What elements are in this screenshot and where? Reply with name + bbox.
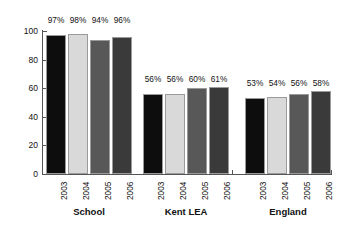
y-axis-line: [42, 30, 43, 175]
bar-kentlea-2004: [165, 94, 185, 174]
value-label-kentlea-2006: 61%: [205, 75, 233, 83]
bar-school-2004: [68, 34, 88, 174]
bar-kentlea-2005: [187, 88, 207, 174]
year-label-kentlea-2004: 2004: [179, 182, 187, 200]
bar-kentlea-2006: [209, 87, 229, 174]
plot-area: 0 20 40 60 80 100 97% 98% 94% 96% 2003 2…: [0, 0, 341, 226]
value-label-england-2006: 58%: [307, 79, 335, 87]
year-label-kentlea-2005: 2005: [201, 182, 209, 200]
group-label-england: England: [243, 207, 333, 217]
year-label-school-2004: 2004: [82, 182, 90, 200]
group-label-school: School: [44, 207, 134, 217]
year-label-england-2004: 2004: [281, 182, 289, 200]
bar-england-2005: [289, 94, 309, 174]
year-label-school-2005: 2005: [104, 182, 112, 200]
year-label-england-2003: 2003: [259, 182, 267, 200]
year-label-kentlea-2006: 2006: [223, 182, 231, 200]
x-tick-group-sep-2: [232, 170, 233, 175]
value-label-school-2006: 96%: [108, 16, 136, 24]
bar-england-2004: [267, 97, 287, 174]
y-tick-label-0: 0: [12, 170, 38, 179]
bar-kentlea-2003: [143, 94, 163, 174]
bar-chart: 0 20 40 60 80 100 97% 98% 94% 96% 2003 2…: [0, 0, 341, 226]
group-label-kentlea: Kent LEA: [141, 207, 231, 217]
y-tick-label-20: 20: [12, 141, 38, 150]
x-tick-end: [331, 170, 332, 175]
year-label-england-2006: 2006: [325, 182, 333, 200]
year-label-england-2005: 2005: [303, 182, 311, 200]
year-label-school-2003: 2003: [60, 182, 68, 200]
y-tick-100: [43, 31, 47, 32]
bar-school-2005: [90, 40, 110, 174]
year-label-school-2006: 2006: [126, 182, 134, 200]
y-tick-0: [43, 174, 47, 175]
y-tick-label-60: 60: [12, 84, 38, 93]
bar-england-2003: [245, 98, 265, 174]
y-tick-label-40: 40: [12, 113, 38, 122]
y-tick-label-100: 100: [12, 27, 38, 36]
year-label-kentlea-2003: 2003: [157, 182, 165, 200]
y-tick-label-80: 80: [12, 56, 38, 65]
bar-england-2006: [311, 91, 331, 174]
bar-school-2003: [46, 35, 66, 174]
bar-school-2006: [112, 37, 132, 174]
x-axis-line: [42, 174, 332, 175]
